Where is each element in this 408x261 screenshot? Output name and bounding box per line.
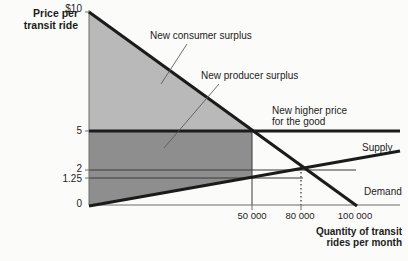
x-axis-title: Quantity of transit rides per month [252,226,402,248]
y-tick-label-10: $10 [40,3,82,14]
annotation-new-higher-price: New higher price for the good [272,105,396,127]
annotation-producer-surplus: New producer surplus [201,70,298,81]
annotation-consumer-surplus: New consumer surplus [150,30,252,41]
x-tick-label-100000: 100 000 [325,211,385,222]
annotation-supply-curve-label: Supply [362,142,393,153]
y-tick-label-0: 0 [40,198,82,209]
x-tick-label-80000: 80 000 [270,211,330,222]
annotation-demand-curve-label: Demand [364,186,402,197]
y-tick-label-5: 5 [40,125,82,136]
y-tick-label-1-25: 1.25 [34,173,82,184]
supply-demand-chart: Price per transit ride Quantity of trans… [0,0,408,261]
